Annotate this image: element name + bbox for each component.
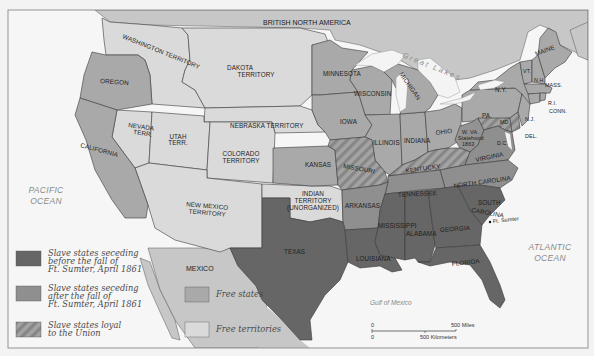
label-dc: D.C. bbox=[497, 140, 508, 146]
label-conn: CONN. bbox=[549, 108, 567, 114]
label-british-north-america: BRITISH NORTH AMERICA bbox=[263, 19, 351, 26]
label-mass: MASS. bbox=[545, 82, 562, 88]
legend-swatch-free-territories bbox=[185, 322, 209, 337]
label-illinois: ILLINOIS bbox=[373, 139, 400, 146]
label-pacific-1: PACIFIC bbox=[28, 185, 64, 195]
label-indiana: INDIANA bbox=[404, 137, 431, 144]
scale-km-label: 500 Kilometers bbox=[420, 334, 457, 340]
legend-label-slave-after-3: Ft. Sumter, April 1861 bbox=[47, 299, 142, 309]
rhode-island-state bbox=[540, 93, 546, 101]
dakota-territory bbox=[182, 28, 328, 108]
label-utah-2: TERR. bbox=[168, 139, 188, 146]
legend-swatch-free-states bbox=[185, 287, 209, 302]
label-colorado-1: COLORADO bbox=[223, 150, 260, 157]
ft-sumter-marker bbox=[489, 221, 491, 223]
label-vt: VT. bbox=[523, 68, 531, 74]
legend-swatch-slave-after bbox=[16, 286, 41, 301]
label-atlantic-2: OCEAN bbox=[534, 253, 566, 263]
legend-label-slave-loyal-2: to the Union bbox=[48, 328, 101, 338]
label-nj: N.J. bbox=[525, 116, 535, 122]
legend-label-free-territories: Free territories bbox=[215, 324, 281, 334]
label-arkansas: ARKANSAS bbox=[345, 202, 380, 209]
label-indian-2: TERRITORY bbox=[294, 197, 332, 204]
label-mexico: MEXICO bbox=[186, 265, 214, 272]
label-dakota-1: DAKOTA bbox=[227, 64, 254, 71]
label-md: MD. bbox=[500, 119, 510, 125]
label-pacific-2: OCEAN bbox=[30, 196, 62, 206]
label-gulf-of-mexico: Gulf of Mexico bbox=[370, 299, 412, 306]
label-iowa: IOWA bbox=[340, 118, 358, 125]
label-sc-1: SOUTH bbox=[478, 199, 501, 206]
connecticut-state bbox=[528, 93, 540, 104]
label-colorado-2: TERRITORY bbox=[222, 157, 260, 164]
label-pa: PA. bbox=[482, 112, 492, 119]
scale-zero-km: 0 bbox=[371, 334, 374, 340]
label-wva-3: 1863 bbox=[462, 141, 474, 147]
label-texas: TEXAS bbox=[284, 248, 305, 255]
legend-swatch-slave-loyal bbox=[16, 322, 41, 337]
label-minnesota: MINNESOTA bbox=[323, 70, 362, 77]
scale-zero-miles: 0 bbox=[371, 322, 374, 328]
label-dakota-2: TERRITORY bbox=[237, 71, 275, 78]
label-nh: N.H. bbox=[534, 77, 545, 83]
label-ri: R.I. bbox=[548, 100, 557, 106]
label-ny: N.Y. bbox=[495, 86, 507, 93]
label-indian-1: INDIAN bbox=[302, 190, 324, 197]
legend-label-slave-before-3: Ft. Sumter, April 1861 bbox=[47, 264, 142, 274]
legend-swatch-slave-before bbox=[16, 251, 41, 266]
label-louisiana: LOUISIANA bbox=[356, 255, 391, 262]
label-wisconsin: WISCONSIN bbox=[354, 90, 392, 97]
scale-miles-label: 500 Miles bbox=[451, 322, 475, 328]
label-atlantic-1: ATLANTIC bbox=[528, 242, 572, 252]
legend-label-free-states: Free states bbox=[215, 289, 263, 299]
label-indian-3: (UNORGANIZED) bbox=[287, 204, 339, 212]
label-alabama: ALABAMA bbox=[406, 230, 437, 237]
civil-war-secession-map: BRITISH NORTH AMERICA Great Lakes WASHIN… bbox=[0, 0, 594, 356]
label-mississippi: MISSISSIPPI bbox=[378, 222, 417, 229]
label-del: DEL. bbox=[525, 133, 537, 139]
label-kansas: KANSAS bbox=[305, 161, 331, 168]
label-nebraska-territory: NEBRASKA TERRITORY bbox=[230, 122, 304, 129]
